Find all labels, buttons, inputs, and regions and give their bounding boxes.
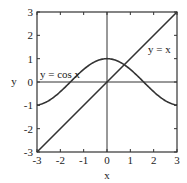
x-tick-label: -3	[32, 154, 42, 166]
y-tick-label: -3	[24, 146, 34, 158]
x-tick-label: 3	[174, 154, 180, 166]
chart-figure: -3-2-10123-3-2-10123 x y y = cos x y = x	[0, 0, 187, 183]
line-chart: -3-2-10123-3-2-10123 x y y = cos x y = x	[0, 0, 187, 183]
x-axis-label: x	[104, 169, 110, 181]
y-tick-label: -1	[24, 99, 33, 111]
x-tick-label: -2	[56, 154, 65, 166]
y-tick-label: 1	[28, 53, 34, 65]
y-axis-label: y	[11, 75, 17, 87]
y-tick-label: -2	[24, 123, 33, 135]
annotation-line: y = x	[148, 43, 171, 55]
x-tick-label: 1	[128, 154, 134, 166]
y-tick-label: 2	[28, 29, 34, 41]
annotation-cos: y = cos x	[40, 68, 81, 80]
y-tick-label: 3	[28, 6, 34, 18]
x-tick-label: 0	[104, 154, 110, 166]
x-tick-label: -1	[79, 154, 88, 166]
y-tick-label: 0	[28, 76, 34, 88]
x-tick-label: 2	[151, 154, 157, 166]
